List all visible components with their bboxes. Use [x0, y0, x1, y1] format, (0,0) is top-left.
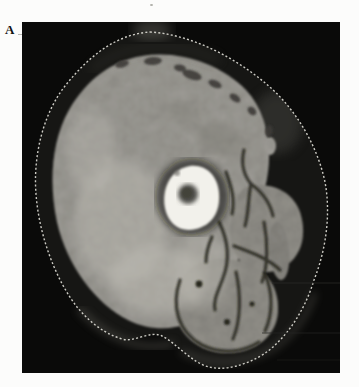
- vessel-dot: [250, 302, 255, 307]
- bone-marrow-center: [182, 188, 193, 199]
- bone-notch: [174, 170, 180, 176]
- vessel-dot: [224, 319, 230, 325]
- figure-panel-label: A: [5, 22, 15, 38]
- femur: [161, 164, 223, 230]
- ct-scan: [22, 22, 340, 373]
- muscle-bump: [264, 137, 276, 155]
- muscle-highlight: [174, 232, 230, 308]
- ct-image: [22, 22, 340, 373]
- vessel-dot: [196, 281, 203, 288]
- figure-page: A: [0, 0, 359, 387]
- print-artifact-dot: [150, 4, 153, 6]
- muscle-highlight: [67, 110, 117, 194]
